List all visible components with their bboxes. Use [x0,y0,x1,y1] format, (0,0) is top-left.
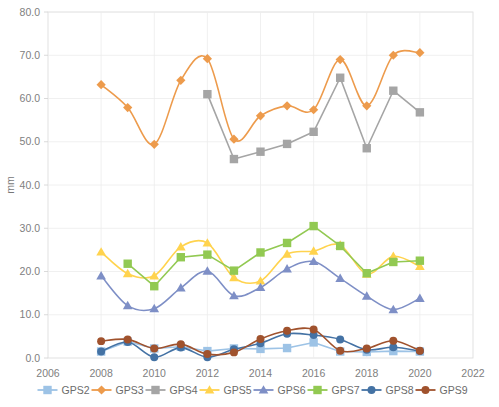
data-point-marker [309,128,317,136]
data-point-marker [283,344,291,352]
data-point-marker [124,335,132,343]
x-tick-label: 2006 [36,367,60,379]
legend-item-gps3[interactable]: GPS3 [92,384,144,396]
y-axis-title: mm [4,176,16,194]
chart-legend: GPS2GPS3GPS4GPS5GPS6GPS7GPS8GPS9 [38,384,468,396]
data-point-marker [416,108,424,116]
x-tick-label: 2008 [89,367,113,379]
data-point-marker [336,347,344,355]
data-point-marker [123,260,131,268]
legend-label: GPS6 [278,384,306,396]
data-point-marker [363,144,371,152]
legend-label: GPS2 [62,384,90,396]
data-point-marker [416,347,424,355]
data-point-marker [151,386,159,394]
data-point-marker [97,348,105,356]
data-point-marker [389,258,397,266]
legend-label: GPS9 [440,384,468,396]
x-tick-label: 2022 [461,367,485,379]
legend-label: GPS7 [332,384,360,396]
data-point-marker [336,335,344,343]
y-tick-label: 40.0 [20,179,41,191]
data-point-marker [150,344,158,352]
y-tick-label: 70.0 [20,49,41,61]
legend-item-gps2[interactable]: GPS2 [38,384,90,396]
data-point-marker [230,348,238,356]
data-point-marker [203,350,211,358]
data-point-marker [422,386,430,394]
y-tick-label: 80.0 [20,6,41,18]
data-point-marker [177,340,185,348]
line-chart: 0.010.020.030.040.050.060.070.080.0mm200… [0,0,499,407]
legend-label: GPS5 [224,384,252,396]
data-point-marker [256,147,264,155]
data-point-marker [230,266,238,274]
x-tick-label: 2020 [408,367,432,379]
data-point-marker [257,335,265,343]
y-tick-label: 0.0 [25,352,40,364]
y-tick-label: 20.0 [20,265,41,277]
data-point-marker [203,90,211,98]
legend-item-gps6[interactable]: GPS6 [254,384,306,396]
y-tick-label: 10.0 [20,308,41,320]
data-point-marker [363,344,371,352]
chart-container: 0.010.020.030.040.050.060.070.080.0mm200… [0,0,499,407]
x-tick-label: 2016 [302,367,326,379]
data-point-marker [368,386,376,394]
legend-label: GPS4 [170,384,198,396]
x-axis: 200620082010201220142016201820202022 [36,367,485,379]
legend-item-gps9[interactable]: GPS9 [416,384,468,396]
y-axis: 0.010.020.030.040.050.060.070.080.0 [20,6,48,364]
y-tick-label: 60.0 [20,92,41,104]
data-point-marker [150,282,158,290]
data-point-marker [389,337,397,345]
y-tick-label: 50.0 [20,135,41,147]
legend-item-gps5[interactable]: GPS5 [200,384,252,396]
data-point-marker [230,155,238,163]
data-point-marker [389,87,397,95]
data-point-marker [309,222,317,230]
data-point-marker [283,140,291,148]
data-point-marker [97,337,105,345]
legend-item-gps4[interactable]: GPS4 [146,384,198,396]
x-tick-label: 2010 [143,367,167,379]
data-point-marker [203,250,211,258]
x-tick-label: 2012 [196,367,220,379]
data-point-marker [283,327,291,335]
x-tick-label: 2014 [249,367,273,379]
data-point-marker [310,325,318,333]
data-point-marker [256,248,264,256]
data-point-marker [43,386,51,394]
legend-item-gps7[interactable]: GPS7 [308,384,360,396]
legend-label: GPS8 [386,384,414,396]
data-point-marker [416,256,424,264]
data-point-marker [313,386,321,394]
y-tick-label: 30.0 [20,222,41,234]
data-point-marker [177,253,185,261]
data-point-marker [97,385,106,394]
data-point-marker [150,353,158,361]
legend-item-gps8[interactable]: GPS8 [362,384,414,396]
data-point-marker [336,74,344,82]
data-point-marker [363,269,371,277]
data-point-marker [283,239,291,247]
legend-label: GPS3 [116,384,144,396]
data-point-marker [336,242,344,250]
data-point-marker [309,338,317,346]
y-axis-title-text: mm [4,176,16,194]
x-tick-label: 2018 [355,367,379,379]
